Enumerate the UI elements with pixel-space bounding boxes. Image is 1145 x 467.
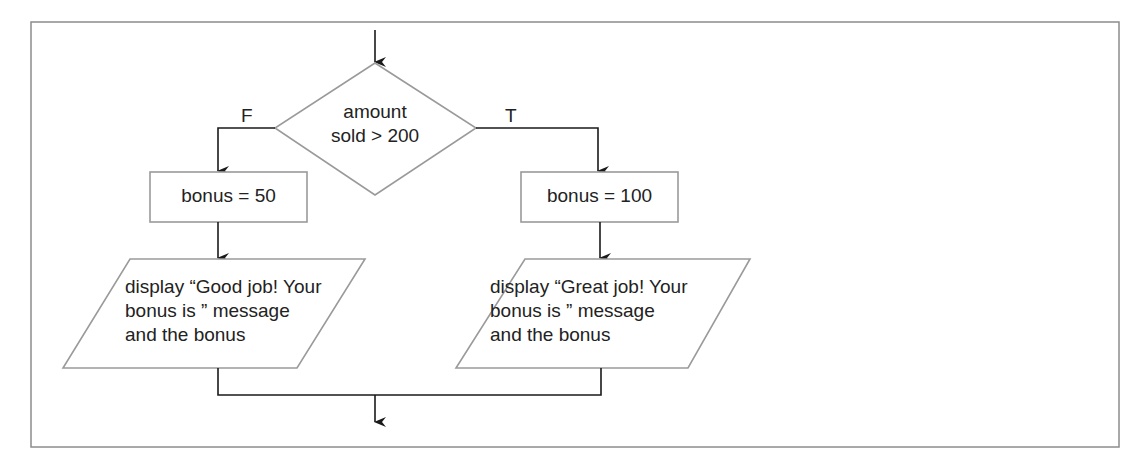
flowchart-canvas bbox=[0, 0, 1145, 467]
false-branch-connector bbox=[218, 128, 275, 171]
decision-line-2: sold > 200 bbox=[315, 124, 435, 148]
diagram-frame bbox=[31, 22, 1119, 447]
output-text-true: display “Great job! Your bonus is ” mess… bbox=[490, 275, 688, 347]
process-text-false: bonus = 50 bbox=[150, 184, 307, 208]
output-false-line-2: bonus is ” message bbox=[125, 299, 321, 323]
decision-line-1: amount bbox=[315, 100, 435, 124]
merge-connector bbox=[218, 368, 601, 395]
output-false-line-1: display “Good job! Your bbox=[125, 275, 321, 299]
false-branch-label: F bbox=[241, 104, 253, 128]
true-branch-connector bbox=[476, 128, 598, 171]
true-branch-label: T bbox=[505, 104, 517, 128]
output-true-line-2: bonus is ” message bbox=[490, 299, 688, 323]
output-false-line-3: and the bonus bbox=[125, 323, 321, 347]
decision-text: amount sold > 200 bbox=[315, 100, 435, 148]
process-text-true: bonus = 100 bbox=[521, 184, 678, 208]
output-true-line-3: and the bonus bbox=[490, 323, 688, 347]
output-text-false: display “Good job! Your bonus is ” messa… bbox=[125, 275, 321, 347]
output-true-line-1: display “Great job! Your bbox=[490, 275, 688, 299]
